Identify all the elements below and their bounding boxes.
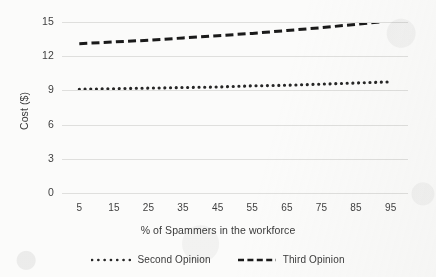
x-axis-tick-label: 65 [270,202,304,213]
legend-label-second-opinion: Second Opinion [137,254,210,265]
legend-label-third-opinion: Third Opinion [283,254,345,265]
chart-legend: Second Opinion Third Opinion [0,254,436,265]
gridline [62,125,408,126]
series-line-third-opinion [79,22,390,44]
y-axis-tick-label: 0 [20,186,54,198]
gridline [62,159,408,160]
legend-item-second-opinion: Second Opinion [91,254,210,265]
x-axis-tick-label: 25 [132,202,166,213]
gridline [62,193,408,194]
x-axis-tick-label: 15 [97,202,131,213]
y-axis-tick-label: 15 [20,15,54,27]
legend-item-third-opinion: Third Opinion [237,254,345,265]
x-axis-title: % of Spammers in the workforce [0,224,436,236]
y-axis-tick-label: 6 [20,118,54,130]
x-axis-tick-label: 55 [235,202,269,213]
series-line-second-opinion [79,82,390,89]
y-axis-tick-label: 12 [20,49,54,61]
gridline [62,22,408,23]
chart-figure: Cost ($) 03691215 5152535455565758595 % … [0,0,436,277]
x-axis-tick-label: 75 [305,202,339,213]
gridline [62,90,408,91]
x-axis-tick-label: 35 [166,202,200,213]
series-lines [62,22,408,193]
x-axis-tick-label: 45 [201,202,235,213]
dashed-line-marker [237,256,277,264]
gridline [62,56,408,57]
plot-area [62,22,408,193]
x-axis-tick-label: 5 [62,202,96,213]
x-axis-tick-label: 95 [374,202,408,213]
y-axis-tick-label: 9 [20,83,54,95]
dotted-line-marker [91,256,131,264]
y-axis-tick-label: 3 [20,152,54,164]
x-axis-tick-label: 85 [339,202,373,213]
